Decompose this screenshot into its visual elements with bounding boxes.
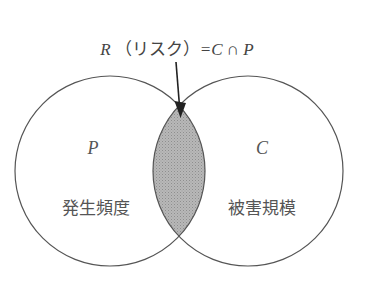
set-p-label: 発生頻度: [62, 198, 130, 218]
risk-katakana: （リスク）: [115, 40, 200, 59]
risk-symbol: R: [99, 40, 111, 59]
risk-venn-diagram: R（リスク）=C ∩ P P 発生頻度 C 被害規模: [0, 0, 371, 290]
set-p-symbol: P: [87, 138, 99, 158]
risk-equation-title: R（リスク）=C ∩ P: [99, 40, 253, 59]
set-c-symbol: C: [256, 138, 269, 158]
set-c-label: 被害規模: [228, 198, 296, 218]
risk-equation-rhs: =C ∩ P: [200, 40, 254, 59]
